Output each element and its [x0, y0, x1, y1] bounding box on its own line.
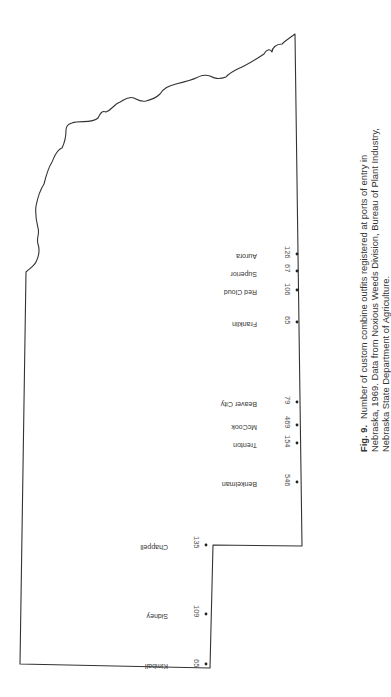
place-label-superior: Superior: [231, 271, 257, 278]
count-superior: 67: [283, 264, 292, 272]
count-franklin: 65: [283, 316, 292, 324]
place-label-kimball: Kimball: [145, 663, 168, 670]
place-label-benkelman: Benkelman: [222, 481, 257, 488]
place-label-sidney: Sidney: [147, 613, 168, 620]
place-label-mccook: McCook: [231, 424, 257, 431]
caption-text: Number of custom combine outfits registe…: [358, 128, 391, 452]
count-beaver-city: 79: [283, 396, 292, 404]
count-aurora: 126: [283, 246, 292, 259]
place-label-trenton: Trenton: [233, 442, 257, 449]
place-label-beaver-city: Beaver City: [221, 401, 257, 408]
count-trenton: 154: [283, 435, 292, 448]
count-mccook: 469: [283, 416, 292, 429]
count-sidney: 109: [192, 605, 201, 618]
count-benkelman: 546: [283, 474, 292, 487]
place-label-franklin: Franklin: [232, 321, 257, 328]
count-kimball: 65: [192, 659, 201, 667]
place-label-red-cloud: Red Cloud: [224, 289, 257, 296]
figure-caption: Fig. 9.Number of custom combine outfits …: [358, 122, 391, 452]
state-boundary: [20, 34, 302, 668]
count-red-cloud: 106: [283, 283, 292, 296]
port-markers: [205, 253, 299, 666]
place-label-chappell: Chappell: [140, 544, 168, 551]
figure-label: Fig. 9.: [358, 425, 369, 452]
place-label-aurora: Aurora: [236, 253, 257, 260]
count-chappell: 135: [192, 536, 201, 549]
